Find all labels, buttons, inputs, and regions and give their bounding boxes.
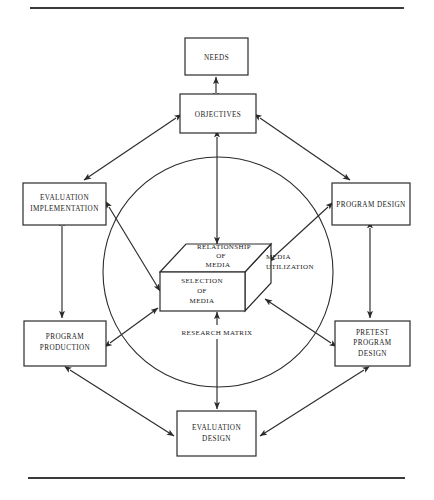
- box-evaluation-implementation-line2: IMPLEMENTATION: [30, 205, 99, 213]
- link-pretest-evaluation-design: [260, 370, 364, 436]
- cube-front-label-line2: OF: [197, 287, 207, 295]
- central-cube[interactable]: RELATIONSHIP OF MEDIA SELECTION OF MEDIA: [160, 243, 271, 312]
- box-needs-label: NEEDS: [204, 54, 229, 62]
- box-program-production-line2: PRODUCTION: [40, 344, 91, 352]
- cube-top-label-line2: OF: [216, 252, 226, 260]
- cube-front-label-line1: SELECTION: [181, 277, 223, 285]
- box-evaluation-implementation[interactable]: EVALUATION IMPLEMENTATION: [23, 183, 106, 225]
- figure-container: NEEDS OBJECTIVES EVALUATION IMPLEMENTATI…: [0, 0, 434, 500]
- media-utilization-line1: MEDIA: [266, 253, 291, 261]
- box-objectives[interactable]: OBJECTIVES: [180, 94, 256, 133]
- box-pretest-program-design-line2: PROGRAM: [353, 339, 392, 347]
- box-evaluation-design-line1: EVALUATION: [192, 424, 241, 432]
- cube-front-label-line3: MEDIA: [190, 297, 215, 305]
- process-diagram: NEEDS OBJECTIVES EVALUATION IMPLEMENTATI…: [0, 0, 434, 500]
- box-pretest-program-design[interactable]: PRETEST PROGRAM DESIGN: [335, 321, 410, 366]
- link-program-production-evaluation-design: [70, 370, 174, 436]
- box-evaluation-design-line2: DESIGN: [202, 435, 231, 443]
- box-pretest-program-design-line1: PRETEST: [356, 329, 389, 337]
- link-objectives-evaluation-implementation: [84, 118, 176, 180]
- link-program-production-cube: [110, 308, 158, 343]
- link-pretest-program-design-cube: [265, 299, 331, 343]
- media-utilization-label: MEDIA UTILIZATION: [266, 253, 314, 271]
- box-evaluation-implementation-line1: EVALUATION: [40, 194, 89, 202]
- box-program-production-line1: PROGRAM: [46, 333, 85, 341]
- box-objectives-label: OBJECTIVES: [195, 111, 241, 119]
- box-program-design[interactable]: PROGRAM DESIGN: [332, 183, 410, 225]
- cube-top-label-line3: MEDIA: [206, 261, 231, 269]
- cube-top-label-line1: RELATIONSHIP: [197, 243, 251, 251]
- research-matrix-label: RESEARCH MATRIX: [181, 329, 252, 337]
- box-program-production[interactable]: PROGRAM PRODUCTION: [24, 321, 106, 366]
- link-evaluation-implementation-cube: [109, 207, 160, 291]
- box-pretest-program-design-line3: DESIGN: [358, 350, 387, 358]
- box-program-design-label: PROGRAM DESIGN: [336, 201, 406, 209]
- box-needs[interactable]: NEEDS: [185, 38, 248, 75]
- box-evaluation-design[interactable]: EVALUATION DESIGN: [177, 411, 256, 456]
- media-utilization-line2: UTILIZATION: [266, 263, 314, 271]
